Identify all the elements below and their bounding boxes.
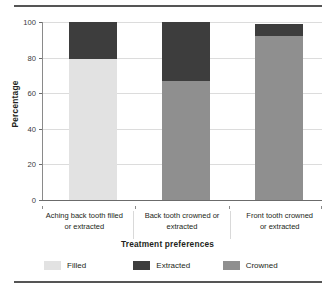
y-axis-tick-label: 60 [14,89,36,98]
x-axis-category-label-line: Front tooth crowned [231,211,328,222]
legend-color-swatch [133,261,150,270]
bar-segment-crowned [255,36,303,200]
x-axis-category-label: Back tooth crowned orextracted [134,211,231,239]
legend-label: Extracted [156,261,190,270]
legend-color-swatch [223,261,240,270]
legend-color-swatch [44,261,61,270]
x-axis-category-label-line: or extracted [231,222,328,233]
x-axis-line [42,200,322,201]
bar-segment-extracted [162,22,210,81]
y-axis-tick-label: 40 [14,124,36,133]
y-axis-tick-label: 0 [14,196,36,205]
legend-entry: Crowned [223,261,312,270]
bar-segment-filled [69,59,117,200]
legend-label: Filled [67,261,86,270]
x-axis-category-labels: Aching back tooth filledor extractedBack… [36,211,328,239]
stacked-bar [69,22,117,200]
legend-entry: Extracted [133,261,222,270]
y-axis-tick-label: 80 [14,53,36,62]
x-axis-category-label-line: extracted [134,222,231,233]
x-axis-category-label-line: Aching back tooth filled [36,211,133,222]
x-axis-title: Treatment preferences [0,239,335,249]
y-axis-tick-labels: 020406080100 [10,14,36,200]
stacked-bar-chart-figure: Percentage 020406080100 Aching back toot… [0,0,335,291]
x-axis-category-label: Aching back tooth filledor extracted [36,211,133,239]
plot-wrapper: Percentage 020406080100 [0,14,335,210]
x-axis-tick-mark [321,206,322,209]
x-axis-tick-mark [42,206,43,209]
bar-segment-crowned [162,81,210,200]
x-axis-category-label-line: Back tooth crowned or [134,211,231,222]
legend-label: Crowned [246,261,278,270]
chart-legend: FilledExtractedCrowned [44,258,312,272]
plot-area [42,22,322,200]
y-axis-line [42,22,43,200]
stacked-bar [162,22,210,200]
x-axis-category-label: Front tooth crownedor extracted [231,211,328,239]
x-axis-tick-marks [42,206,322,210]
y-axis-tick-label: 100 [14,18,36,27]
x-axis-tick-mark [229,206,230,209]
x-axis-tick-mark [135,206,136,209]
bottom-divider-rule [14,281,322,283]
top-divider-rule [14,5,322,7]
stacked-bar [255,22,303,200]
bar-segment-extracted [255,24,303,36]
x-axis-category-label-line: or extracted [36,222,133,233]
legend-entry: Filled [44,261,133,270]
bar-segment-extracted [69,22,117,59]
y-axis-tick-label: 20 [14,160,36,169]
